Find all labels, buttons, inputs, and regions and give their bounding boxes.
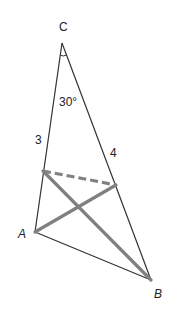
- label-C: C: [59, 20, 68, 34]
- segment-AQ: [35, 185, 116, 232]
- triangle-diagram: C A B 30° 3 4: [0, 0, 179, 316]
- label-angle-C: 30°: [59, 95, 77, 109]
- segment-PB: [43, 171, 151, 280]
- label-B: B: [154, 287, 162, 301]
- label-side-3: 3: [35, 133, 42, 147]
- angle-arc-C: [60, 55, 66, 56]
- side-AB: [35, 232, 151, 280]
- label-side-4: 4: [110, 146, 117, 160]
- side-CB: [62, 43, 151, 280]
- label-A: A: [17, 227, 26, 241]
